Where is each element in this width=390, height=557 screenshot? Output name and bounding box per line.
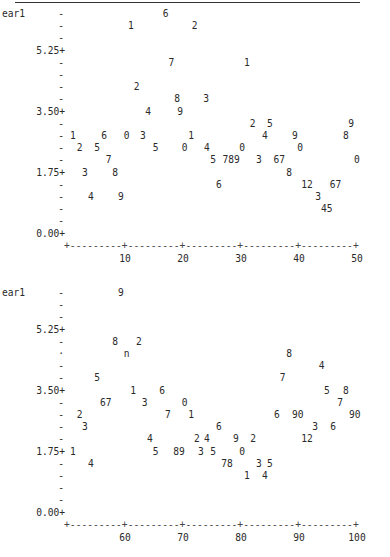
y-axis-minor-tick: -: [58, 20, 64, 32]
y-tick-label: 1.75+: [36, 167, 65, 179]
data-point-label: 6: [216, 421, 222, 433]
x-tick-label: 80: [235, 532, 247, 544]
y-axis-minor-tick: -: [58, 409, 64, 421]
y-axis-minor-tick: -: [58, 360, 64, 372]
data-point-label: 0: [182, 397, 188, 409]
data-point-label: 3: [312, 421, 318, 433]
data-point-label: 6: [330, 421, 336, 433]
data-point-label: 90: [292, 409, 304, 421]
y-tick-label: 3.50+: [36, 106, 65, 118]
data-point-label: 3: [203, 93, 209, 105]
data-point-label: 1: [70, 446, 76, 458]
data-point-label: 0: [124, 130, 130, 142]
data-point-label: 1: [188, 409, 194, 421]
data-point-label: 3: [198, 446, 204, 458]
data-point-label: 0: [182, 142, 188, 154]
data-point-label: 2: [77, 409, 83, 421]
data-point-label: 2: [192, 20, 198, 32]
x-tick-label: 60: [119, 532, 131, 544]
data-point-label: 8: [112, 167, 118, 179]
data-point-label: 9: [233, 433, 239, 445]
data-point-label: 0: [297, 142, 303, 154]
y-tick-label: 0.00+: [36, 507, 65, 519]
data-point-label: 12: [301, 433, 313, 445]
x-tick-label: 40: [293, 253, 305, 265]
top-border-line: [15, 2, 360, 3]
data-point-label: 89: [173, 446, 185, 458]
y-axis-minor-tick: -: [58, 154, 64, 166]
y-axis-minor-tick: -: [58, 433, 64, 445]
y-axis-minor-tick: -: [58, 215, 64, 227]
data-point-label: 7: [165, 409, 171, 421]
y-axis-minor-tick: -: [58, 372, 64, 384]
data-point-label: 1: [244, 57, 250, 69]
y-axis-minor-tick: -: [58, 203, 64, 215]
y-axis-minor-tick: -: [58, 397, 64, 409]
data-point-label: 1: [244, 470, 250, 482]
x-tick-label: 100: [348, 532, 365, 544]
y-axis-minor-tick: -: [58, 69, 64, 81]
data-point-label: 1: [128, 20, 134, 32]
y-axis-minor-tick: -: [58, 57, 64, 69]
x-tick-label: 20: [177, 253, 189, 265]
data-point-label: 2: [194, 433, 200, 445]
data-point-label: 3: [140, 130, 146, 142]
y-axis-minor-tick: -: [58, 287, 64, 299]
x-tick-label: 90: [293, 532, 305, 544]
x-tick-label: 30: [235, 253, 247, 265]
data-point-label: 78: [221, 458, 233, 470]
data-point-label: 6: [163, 8, 169, 20]
data-point-label: 5: [153, 446, 159, 458]
y-axis-minor-tick: -: [58, 130, 64, 142]
y-axis-minor-tick: -: [58, 458, 64, 470]
data-point-label: 5: [210, 154, 216, 166]
y-axis-minor-tick: -: [58, 81, 64, 93]
y-axis-minor-tick: -: [58, 470, 64, 482]
y-axis-minor-tick: -: [58, 142, 64, 154]
data-point-label: n: [124, 348, 130, 360]
data-point-label: 8: [343, 385, 349, 397]
data-point-label: 0: [354, 154, 360, 166]
data-point-label: 67: [273, 154, 285, 166]
data-point-label: 4: [204, 433, 210, 445]
x-tick-label: 50: [351, 253, 363, 265]
data-point-label: 2: [250, 118, 256, 130]
data-point-label: 9: [118, 287, 124, 299]
data-point-label: 2: [250, 433, 256, 445]
data-point-label: 2: [134, 81, 140, 93]
y-axis-minor-tick: -: [58, 32, 64, 44]
x-axis-line: +---------+---------+---------+---------…: [64, 519, 359, 531]
data-point-label: 3: [142, 397, 148, 409]
data-point-label: 2: [77, 142, 83, 154]
y-axis-minor-tick: -: [58, 191, 64, 203]
data-point-label: 5: [153, 142, 159, 154]
data-point-label: 1: [130, 385, 136, 397]
data-point-label: 4: [147, 433, 153, 445]
data-point-label: 9: [292, 130, 298, 142]
data-point-label: 6: [101, 130, 107, 142]
data-point-label: 6: [216, 179, 222, 191]
data-point-label: 4: [204, 142, 210, 154]
data-point-label: 6: [274, 409, 280, 421]
y-axis-minor-tick: -: [58, 336, 64, 348]
data-point-label: 1: [70, 130, 76, 142]
data-point-label: 7: [337, 397, 343, 409]
y-axis-minor-tick: -: [58, 482, 64, 494]
y-axis-minor-tick: -: [58, 8, 64, 20]
data-point-label: 5: [267, 118, 273, 130]
data-point-label: 3: [256, 458, 262, 470]
y-tick-label: 0.00+: [36, 228, 65, 240]
data-point-label: 4: [88, 191, 94, 203]
y-axis-minor-tick: -: [58, 311, 64, 323]
y-axis-minor-tick: -: [58, 299, 64, 311]
data-point-label: 8: [343, 130, 349, 142]
y-axis-minor-tick: -: [58, 421, 64, 433]
data-point-label: 1: [188, 130, 194, 142]
data-point-label: 0: [239, 142, 245, 154]
data-point-label: 5: [94, 142, 100, 154]
y-axis-minor-tick: -: [58, 118, 64, 130]
data-point-label: 8: [112, 336, 118, 348]
data-point-label: 9: [177, 106, 183, 118]
data-point-label: 12: [301, 179, 313, 191]
data-point-label: 2: [136, 336, 142, 348]
